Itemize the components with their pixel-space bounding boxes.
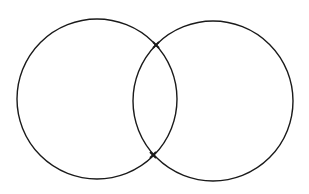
intersecting-circles-diagram: [0, 0, 309, 194]
top-intersection-marker: [153, 42, 159, 48]
